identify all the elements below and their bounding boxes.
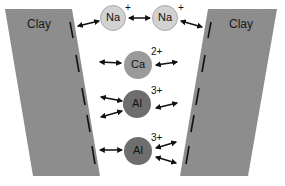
ion-symbol-na-1: Na [103, 11, 123, 23]
clay-plate-right [180, 9, 277, 176]
ion-charge-na-1: + [125, 2, 131, 13]
clay-plate-left [5, 9, 100, 176]
ion-symbol-al-2: Al [128, 144, 148, 156]
ion-symbol-al-1: Al [127, 97, 147, 109]
clay-label-right: Clay [229, 17, 253, 31]
ion-charge-ca: 2+ [151, 46, 162, 57]
ion-symbol-na-2: Na [155, 11, 175, 23]
ion-charge-na-2: + [178, 2, 184, 13]
cation-bridging-diagram: Clay Clay Na + Na + Ca 2+ Al 3+ Al 3+ [0, 0, 285, 186]
ion-charge-al-2: 3+ [151, 132, 162, 143]
ion-charge-al-1: 3+ [151, 85, 162, 96]
ion-symbol-ca: Ca [127, 58, 149, 70]
clay-label-left: Clay [27, 17, 51, 31]
